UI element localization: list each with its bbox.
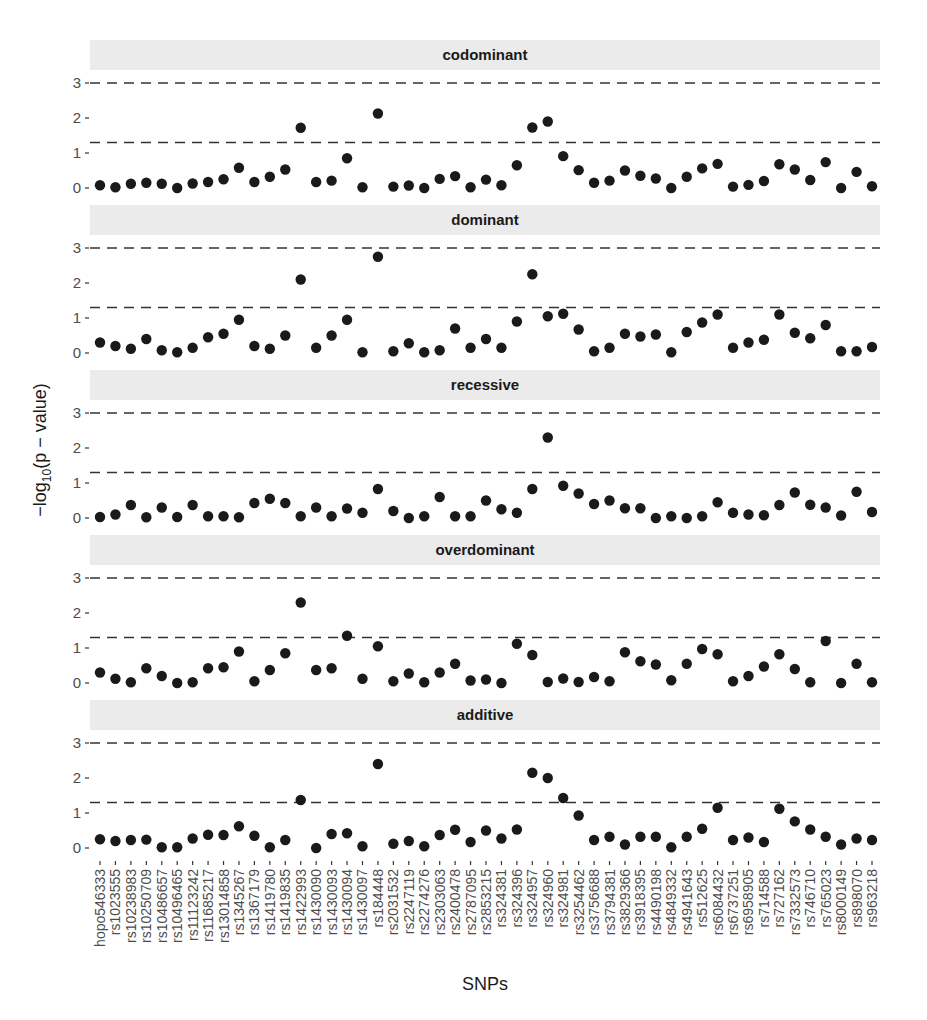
data-point [388,506,398,516]
x-tick-label: rs1367179 [246,869,262,935]
x-tick-label: rs1419780 [262,869,278,935]
y-tick-label: 0 [73,344,81,361]
x-tick-label: rs1345267 [231,869,247,935]
data-point [790,664,800,674]
data-point [280,164,290,174]
data-point [635,171,645,181]
data-point [234,512,244,522]
data-point [326,663,336,673]
data-point [404,338,414,348]
data-point [187,500,197,510]
x-tick-label: rs3918395 [632,869,648,935]
x-tick-label: hopo546333 [92,869,108,947]
data-point [543,116,553,126]
data-point [110,509,120,519]
x-tick-label: rs2274276 [416,869,432,935]
data-point [512,639,522,649]
y-tick-label: 0 [73,674,81,691]
data-point [203,511,213,521]
data-point [836,346,846,356]
x-tick-label: rs324957 [524,869,540,928]
data-point [342,503,352,513]
y-tick-label: 1 [73,474,81,491]
data-point [743,671,753,681]
facet-panel-dominant: dominant0123 [73,205,880,361]
x-tick-label: rs4849332 [663,869,679,935]
data-point [589,672,599,682]
x-tick-label: rs765023 [818,869,834,928]
data-point [805,677,815,687]
data-point [759,661,769,671]
facet-panel-additive: additive0123 [73,700,880,856]
data-point [867,835,877,845]
x-tick-label: rs898070 [849,869,865,928]
data-point [95,512,105,522]
data-point [820,320,830,330]
data-point [95,337,105,347]
data-point [759,335,769,345]
data-point [172,347,182,357]
data-point [249,676,259,686]
data-point [527,650,537,660]
data-point [759,176,769,186]
data-point [95,180,105,190]
data-point [311,177,321,187]
data-point [172,842,182,852]
data-point [450,171,460,181]
data-point [388,181,398,191]
facet-panel-recessive: recessive0123 [73,370,880,526]
data-point [620,647,630,657]
data-point [589,346,599,356]
data-point [296,511,306,521]
data-point [836,183,846,193]
x-tick-label: rs2787095 [463,869,479,935]
data-point [141,178,151,188]
data-point [419,183,429,193]
data-point [543,773,553,783]
data-point [450,659,460,669]
x-tick-label: rs2031532 [385,869,401,935]
x-tick-label: rs1430094 [339,869,355,935]
data-point [465,343,475,353]
data-point [635,832,645,842]
data-point [126,500,136,510]
data-point [218,830,228,840]
data-point [682,659,692,669]
data-point [543,311,553,321]
x-tick-label: rs324381 [493,869,509,928]
y-tick-label: 3 [73,74,81,91]
data-point [157,179,167,189]
facet-panel-codominant: codominant0123 [73,40,880,196]
data-point [249,831,259,841]
data-point [651,513,661,523]
data-point [342,828,352,838]
data-point [172,512,182,522]
data-point [481,674,491,684]
y-tick-label: 1 [73,144,81,161]
data-point [434,492,444,502]
data-point [589,499,599,509]
x-tick-label: rs746710 [802,869,818,928]
data-point [496,180,506,190]
data-point [311,502,321,512]
x-tick-label: rs8000149 [833,869,849,935]
data-point [326,175,336,185]
data-point [697,163,707,173]
y-tick-label: 1 [73,639,81,656]
x-tick-label: rs184448 [370,869,386,928]
data-point [419,677,429,687]
data-point [187,677,197,687]
data-point [620,329,630,339]
data-point [790,328,800,338]
data-point [712,803,722,813]
data-point [820,636,830,646]
x-tick-label: rs727162 [771,869,787,928]
y-tick-label: 2 [73,439,81,456]
data-point [496,343,506,353]
data-point [851,833,861,843]
data-point [95,834,105,844]
data-point [249,177,259,187]
data-point [218,174,228,184]
y-tick-label: 1 [73,309,81,326]
data-point [357,508,367,518]
